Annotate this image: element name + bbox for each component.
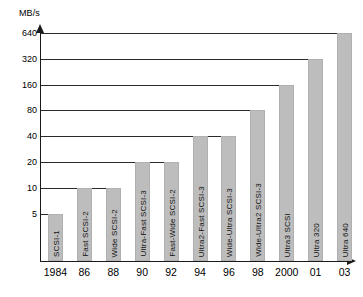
- bar: Ultra 320: [308, 59, 323, 261]
- x-axis-tick-label: 98: [252, 266, 264, 278]
- x-axis-tick-label: 03: [339, 266, 351, 278]
- y-axis-arrow-icon: [36, 24, 44, 33]
- x-axis-tick-label: 01: [310, 266, 322, 278]
- x-axis-tick-labels: 19848688909294969820000103: [0, 266, 363, 286]
- bar-label: Fast-Wide SCSI-2: [168, 189, 177, 257]
- bar-label: Ultra-Fast SCSI-3: [139, 190, 148, 257]
- bar-label: SCSI-1: [52, 230, 61, 257]
- y-axis-tick-label: 20: [27, 157, 37, 167]
- y-axis-tick-label: 80: [27, 105, 37, 115]
- bar: Ultra3 SCSI: [279, 85, 294, 261]
- y-axis-tick-label: 320: [22, 54, 37, 64]
- x-axis-tick-label: 90: [136, 266, 148, 278]
- y-axis-tick-label: 5: [32, 209, 37, 219]
- x-axis-tick-label: 1984: [44, 266, 67, 278]
- scsi-bandwidth-chart: MB/s 640320160804020105 SCSI-1Fast SCSI-…: [0, 0, 363, 297]
- gridline: [41, 162, 179, 163]
- gridline: [41, 59, 323, 60]
- y-axis-tick-label: 40: [27, 131, 37, 141]
- gridline: [41, 110, 265, 111]
- gridline: [41, 33, 352, 34]
- bar-label: Fast SCSI-2: [81, 211, 90, 257]
- x-axis-tick-label: 92: [165, 266, 177, 278]
- bar: Fast SCSI-2: [77, 188, 92, 261]
- x-axis-tick-label: 96: [223, 266, 235, 278]
- plot-area: SCSI-1Fast SCSI-2Wide SCSI-2Ultra-Fast S…: [41, 33, 359, 261]
- bar: Wide-Ultra2 SCSI-3: [250, 110, 265, 261]
- y-axis-tick-label: 10: [27, 183, 37, 193]
- bar: Wide SCSI-2: [106, 188, 121, 261]
- x-axis-line: [40, 261, 348, 262]
- x-axis-tick-label: 94: [194, 266, 206, 278]
- y-axis-tick-labels: 640320160804020105: [0, 0, 37, 297]
- bar-label: Ultra 640: [341, 223, 350, 257]
- y-axis-tick-label: 640: [22, 28, 37, 38]
- bar-label: Wide-Ultra2 SCSI-3: [254, 183, 263, 257]
- bar-label: Ultra3 SCSI: [283, 213, 292, 257]
- x-axis-tick-label: 86: [79, 266, 91, 278]
- x-axis-tick-label: 2000: [275, 266, 298, 278]
- y-axis-tick-label: 160: [22, 80, 37, 90]
- bar: Fast-Wide SCSI-2: [164, 162, 179, 261]
- bar-label: Wide SCSI-2: [110, 209, 119, 257]
- bar: Ultra-Fast SCSI-3: [135, 162, 150, 261]
- bar-label: Ultra 320: [312, 223, 321, 257]
- bar-label: Wide-Ultra SCSI-3: [225, 188, 234, 257]
- bar: Ultra2-Fast SCSI-3: [193, 136, 208, 261]
- bar: SCSI-1: [48, 214, 63, 261]
- bar-label: Ultra2-Fast SCSI-3: [197, 186, 206, 257]
- bar: Ultra 640: [337, 33, 352, 261]
- gridline: [41, 85, 294, 86]
- x-axis-tick-label: 88: [107, 266, 119, 278]
- bar: Wide-Ultra SCSI-3: [221, 136, 236, 261]
